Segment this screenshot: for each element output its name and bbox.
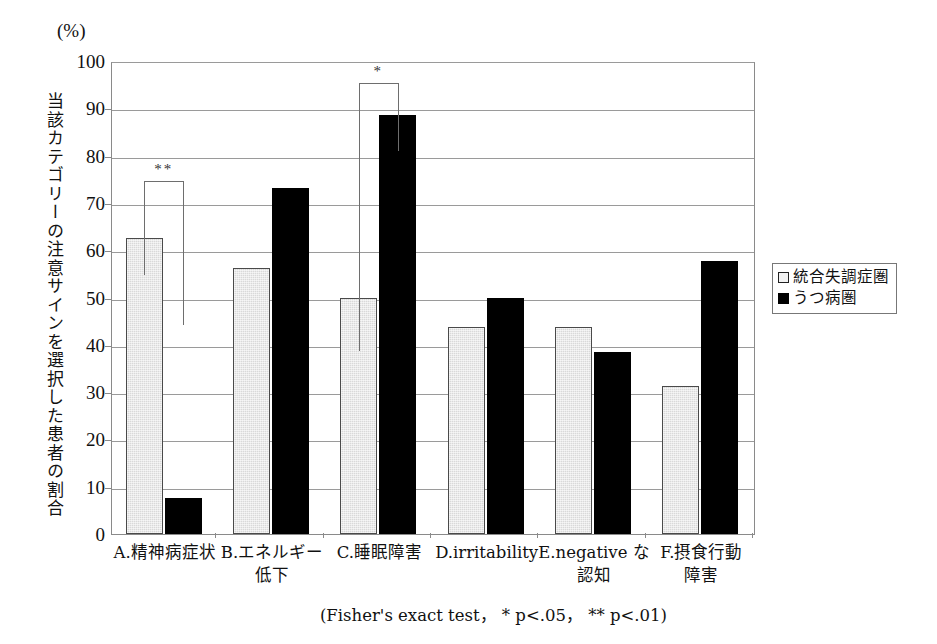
bracket-left-leg xyxy=(144,181,145,275)
x-axis-category-label: B.エネルギー 低下 xyxy=(212,541,331,587)
bar-depression xyxy=(379,115,416,534)
gridline xyxy=(112,205,754,206)
light-square-icon xyxy=(778,272,789,283)
plot-area: *** xyxy=(111,62,755,535)
bracket-left-leg xyxy=(359,83,360,351)
bar-schizophrenia xyxy=(448,327,485,534)
gridline xyxy=(112,158,754,159)
gridline xyxy=(112,394,754,395)
legend-item-label: 統合失調症圏 xyxy=(793,267,889,288)
bar-depression xyxy=(594,352,631,534)
bracket-top-line xyxy=(144,181,183,182)
bracket-right-leg xyxy=(398,83,399,151)
x-axis-tick-mark xyxy=(215,533,216,538)
x-axis-tick-mark xyxy=(430,533,431,538)
y-axis-tick-label: 50 xyxy=(59,288,105,310)
bar-schizophrenia xyxy=(233,268,270,534)
bar-depression xyxy=(487,298,524,535)
gridline xyxy=(112,300,754,301)
black-square-icon xyxy=(778,293,789,304)
x-axis-category-label: C.睡眠障害 xyxy=(320,541,439,564)
bar-depression xyxy=(272,188,309,534)
legend-item-label: うつ病圏 xyxy=(793,288,857,309)
x-axis-category-label: D.irritability xyxy=(427,541,546,564)
y-axis-tick-label: 0 xyxy=(59,524,105,546)
y-axis-tick-label: 40 xyxy=(59,335,105,357)
y-axis-tick-label: 100 xyxy=(59,51,105,73)
y-axis-tick-label: 30 xyxy=(59,382,105,404)
gridline xyxy=(112,252,754,253)
significance-marker: * xyxy=(339,63,418,80)
y-axis-tick-label: 60 xyxy=(59,240,105,262)
y-axis-tick-label: 70 xyxy=(59,193,105,215)
x-axis-category-label: F.摂食行動 障害 xyxy=(642,541,761,587)
gridline xyxy=(112,347,754,348)
bar-schizophrenia xyxy=(126,238,163,534)
bar-chart-figure: (%) 当該カテゴリーの注意サインを選択した患者の割合 010203040506… xyxy=(0,0,937,644)
bracket-right-leg xyxy=(183,181,184,325)
y-axis-tick-label: 90 xyxy=(59,98,105,120)
x-axis-tick-mark xyxy=(323,533,324,538)
y-axis-tick-label: 10 xyxy=(59,477,105,499)
bar-depression xyxy=(165,498,202,534)
legend-item: 統合失調症圏 xyxy=(778,267,889,288)
y-axis-tick-label: 80 xyxy=(59,146,105,168)
significance-marker: ** xyxy=(124,161,203,178)
x-axis-category-label: A.精神病症状 xyxy=(105,541,224,564)
bar-schizophrenia xyxy=(662,386,699,534)
x-axis-category-label: E.negative な 認知 xyxy=(534,541,653,587)
bar-depression xyxy=(701,261,738,534)
gridline xyxy=(112,489,754,490)
legend: 統合失調症圏うつ病圏 xyxy=(772,263,897,314)
gridline xyxy=(112,441,754,442)
gridline xyxy=(112,110,754,111)
bracket-top-line xyxy=(359,83,398,84)
legend-item: うつ病圏 xyxy=(778,288,889,309)
y-axis-unit-label: (%) xyxy=(57,20,85,42)
bar-schizophrenia xyxy=(555,327,592,534)
x-axis-tick-mark xyxy=(645,533,646,538)
figure-caption: (Fisher's exact test， * p<.05， ** p<.01) xyxy=(0,602,937,626)
x-axis-tick-mark xyxy=(752,533,753,538)
x-axis-tick-mark xyxy=(537,533,538,538)
y-axis-tick-label: 20 xyxy=(59,429,105,451)
